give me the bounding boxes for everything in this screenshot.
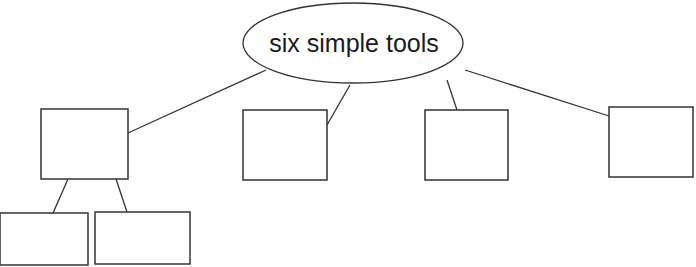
edge-box-1-box-1b [116, 179, 127, 212]
node-box-4 [609, 107, 693, 177]
edge-root-box-2 [327, 85, 350, 125]
node-box-2 [243, 110, 327, 180]
edge-root-box-4 [465, 70, 609, 116]
node-box-1 [41, 109, 128, 179]
root-node-label: six simple tools [244, 18, 464, 68]
edge-box-1-box-1a [53, 179, 68, 213]
node-box-3 [425, 110, 508, 180]
edge-root-box-3 [447, 80, 457, 110]
node-box-1b [95, 212, 190, 264]
node-box-1a [0, 213, 88, 265]
